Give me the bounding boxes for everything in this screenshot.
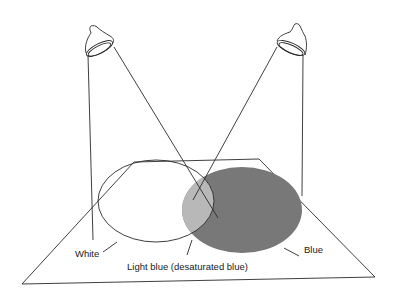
left-lamp-icon <box>84 26 114 60</box>
left-beam-left-edge <box>88 55 93 240</box>
color-mixing-diagram: White Light blue (desaturated blue) Blue <box>0 0 397 295</box>
blue-leader-line <box>284 248 299 256</box>
left-beam-right-edge <box>114 47 218 218</box>
right-beam-right-edge <box>302 55 303 196</box>
white-label: White <box>75 248 99 259</box>
white-leader-line <box>103 242 117 252</box>
light-blue-label: Light blue (desaturated blue) <box>127 261 248 272</box>
blue-label: Blue <box>304 244 323 255</box>
right-lamp-icon <box>275 24 306 59</box>
light-blue-leader-line <box>187 240 192 255</box>
